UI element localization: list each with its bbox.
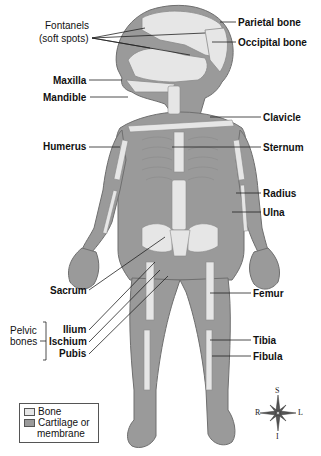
label-pelvic: Pelvic [10,325,37,336]
infant-skeleton-diagram: Fontanels (soft spots) Maxilla Mandible … [0,0,321,456]
legend-item-cartilage: Cartilage or [24,418,90,428]
compass-rose-icon [260,395,296,431]
label-ischium: Ischium [49,336,87,347]
label-fontanels: Fontanels [45,20,89,31]
compass-left: L [298,408,303,417]
label-pubis: Pubis [59,348,86,359]
label-clavicle: Clavicle [263,112,301,123]
legend-item-bone: Bone [24,407,61,417]
legend-bone-label: Bone [38,406,61,417]
label-maxilla: Maxilla [53,75,86,86]
label-humerus: Humerus [43,141,86,152]
label-ulna: Ulna [263,207,285,218]
label-radius: Radius [263,188,296,199]
label-bones: bones [10,336,37,347]
label-fibula: Fibula [253,351,282,362]
legend: Bone Cartilage or membrane [19,403,99,443]
label-parietal-bone: Parietal bone [238,17,301,28]
compass-superior: S [275,386,279,395]
cartilage-swatch-icon [24,419,35,427]
label-ilium: Ilium [63,324,86,335]
label-sacrum: Sacrum [50,285,87,296]
skeleton-illustration [0,0,321,456]
legend-cartilage-label: Cartilage or [38,417,90,428]
bone-swatch-icon [24,408,35,416]
compass-inferior: I [276,432,279,441]
legend-item-cartilage-line2: membrane [37,429,85,439]
label-soft-spots: (soft spots) [39,33,88,44]
compass-right: R [255,408,260,417]
label-mandible: Mandible [43,92,86,103]
label-femur: Femur [253,288,284,299]
label-sternum: Sternum [263,142,304,153]
label-occipital-bone: Occipital bone [238,37,307,48]
label-tibia: Tibia [253,335,276,346]
legend-membrane-label: membrane [37,428,85,439]
